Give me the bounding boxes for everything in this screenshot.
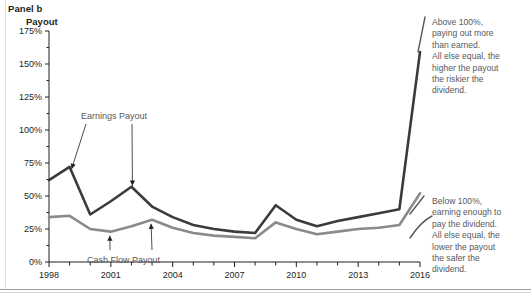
annotation-above-100-line-2: than earned. (432, 40, 528, 51)
callout-arrow-earnings-2 (130, 124, 135, 186)
y-tick-label-150: 150% (19, 59, 42, 69)
footer-rule (0, 289, 531, 290)
y-tick-label-0: 0% (29, 257, 42, 267)
x-tick-label-2016: 2016 (410, 270, 430, 280)
annotation-below-100-line-2: pay the dividend. (432, 219, 528, 230)
annotation-above-100-line-3: All else equal, the (432, 51, 528, 62)
note-leader-top (418, 17, 425, 52)
annotation-above-100-line-1: paying out more (432, 28, 528, 39)
x-tick-label-1998: 1998 (39, 270, 59, 280)
x-tick-label-2001: 2001 (101, 270, 121, 280)
annotation-below-100-line-4: lower the payout (432, 242, 528, 253)
annotation-above-100-line-5: the riskier the (432, 74, 528, 85)
y-tick-label-100: 100% (19, 125, 42, 135)
callout-arrow-cashflow-1 (107, 236, 112, 250)
y-tick-label-125: 125% (19, 92, 42, 102)
footer-rule-secondary (0, 292, 531, 293)
annotation-below-100-line-5: the safer the (432, 253, 528, 264)
annotation-below-100-line-6: dividend. (432, 264, 528, 275)
callout-arrow-cashflow-2 (149, 224, 154, 250)
annotation-above-100-line-6: dividend. (432, 85, 528, 96)
annotation-above-100-line-0: Above 100%, (432, 17, 528, 28)
series-label-earnings-payout: Earnings Payout (81, 111, 148, 121)
x-tick-label-2007: 2007 (224, 270, 244, 280)
series-line-earnings-payout (49, 52, 420, 233)
chart-figure: Panel b Payout 0%25%50%75%100%125%150%17… (0, 0, 531, 303)
annotation-below-100-line-0: Below 100%, (432, 196, 528, 207)
x-tick-label-2010: 2010 (286, 270, 306, 280)
callout-arrow-earnings-1 (71, 124, 86, 169)
y-tick-label-75: 75% (24, 158, 42, 168)
annotation-above-100-line-4: higher the payout (432, 63, 528, 74)
y-tick-label-175: 175% (19, 26, 42, 36)
annotation-below-100-line-3: All else equal, the (432, 230, 528, 241)
x-tick-label-2013: 2013 (348, 270, 368, 280)
y-tick-label-50: 50% (24, 191, 42, 201)
x-tick-label-2004: 2004 (163, 270, 183, 280)
series-label-cash-flow-payout: Cash Flow Payout (87, 255, 161, 265)
annotation-above-100: Above 100%,paying out morethan earned.Al… (432, 17, 528, 97)
y-tick-label-25: 25% (24, 224, 42, 234)
annotation-below-100-line-1: earning enough to (432, 207, 528, 218)
annotation-below-100: Below 100%,earning enough topay the divi… (432, 196, 528, 276)
